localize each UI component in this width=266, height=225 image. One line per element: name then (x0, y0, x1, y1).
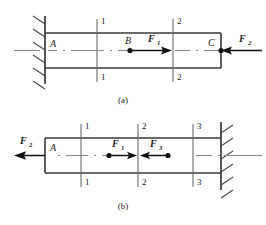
force-subscript-f1-b: 1 (121, 144, 124, 151)
section-label-a-1-top: 1 (101, 16, 106, 26)
section-label-a-2-top: 2 (177, 16, 182, 26)
force-label-f1-a: F (147, 33, 155, 44)
force-f2-a: C F 2 (208, 33, 262, 54)
fixed-support-left-a (33, 16, 45, 89)
point-label-c: C (208, 37, 215, 48)
caption-a: (a) (118, 95, 128, 105)
hatch-stroke-a-5 (33, 68, 45, 76)
section-label-b-2-bottom: 2 (142, 177, 147, 187)
hatch-stroke-a-4 (33, 55, 45, 63)
force-f1-a: B F 1 (125, 33, 172, 54)
figure-root: 1 1 2 2 A (0, 0, 266, 225)
technical-diagram-canvas: 1 1 2 2 A (0, 0, 266, 225)
section-label-a-2-bottom: 2 (177, 72, 182, 82)
section-line-b-1: 1 1 (81, 121, 90, 187)
force-subscript-f1-a: 1 (157, 39, 160, 46)
force-label-f1-b: F (111, 138, 119, 149)
section-label-b-2-top: 2 (142, 121, 147, 131)
section-label-b-3-top: 3 (197, 121, 202, 131)
section-label-b-3-bottom: 3 (197, 177, 202, 187)
hatch-stroke-b-2 (221, 138, 233, 146)
point-label-b: B (125, 35, 131, 46)
force-subscript-f2-b: 2 (28, 141, 33, 148)
fixed-support-right-b (221, 122, 233, 198)
force-f3-b: F 3 (140, 138, 171, 159)
section-label-b-1-bottom: 1 (85, 177, 90, 187)
hatch-stroke-a-6 (33, 81, 45, 89)
force-f2-b: F 2 (14, 135, 45, 160)
hatch-stroke-b-1 (221, 125, 233, 133)
force-subscript-f2-a: 2 (247, 39, 252, 46)
diagram-b: 1 1 2 2 3 3 A (14, 121, 262, 211)
hatch-stroke-b-5 (221, 177, 233, 185)
section-line-b-3: 3 3 (193, 121, 202, 187)
hatch-stroke-a-1 (33, 16, 45, 24)
hatch-stroke-a-3 (33, 42, 45, 50)
section-label-b-1-top: 1 (85, 121, 90, 131)
caption-b: (b) (118, 201, 129, 211)
hatch-stroke-b-6 (221, 190, 233, 198)
force-label-f2-a: F (238, 33, 246, 44)
hatch-stroke-b-4 (221, 164, 233, 172)
force-label-f3-b: F (149, 138, 157, 149)
section-line-a-1: 1 1 (97, 16, 106, 82)
diagram-a: 1 1 2 2 A (14, 16, 262, 105)
force-subscript-f3-b: 3 (158, 144, 163, 151)
point-label-a: A (49, 38, 57, 49)
point-label-b-a: A (49, 142, 57, 153)
force-f1-b: F 1 (106, 138, 137, 159)
hatch-stroke-a-2 (33, 29, 45, 37)
force-label-f2-b: F (19, 135, 27, 146)
section-line-a-2: 2 2 (173, 16, 182, 82)
section-label-a-1-bottom: 1 (101, 72, 106, 82)
